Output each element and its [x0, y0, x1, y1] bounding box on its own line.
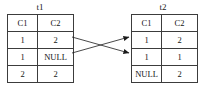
connector-t1-row1-to-t2-row2 — [72, 37, 129, 53]
table-t1: C1 C2 1 2 1 NULL 2 2 — [7, 14, 74, 83]
header-cell-c2: C2 — [38, 15, 74, 32]
cell-c1: 1 — [8, 49, 38, 66]
header-cell-c1: C1 — [132, 15, 162, 32]
header-cell-c2: C2 — [162, 15, 198, 32]
cell-c1: 1 — [132, 32, 162, 49]
cell-c2: 2 — [162, 32, 198, 49]
table-header-row: C1 C2 — [8, 15, 74, 32]
connector-t1-row2-to-t2-row1 — [72, 37, 129, 53]
cell-c2: NULL — [38, 49, 74, 66]
cell-c2: 2 — [38, 32, 74, 49]
header-cell-c1: C1 — [8, 15, 38, 32]
table-t2: C1 C2 1 2 1 1 NULL 2 — [131, 14, 198, 83]
table-row: 1 1 — [132, 49, 198, 66]
cell-c1: 1 — [132, 49, 162, 66]
table-row: 1 2 — [132, 32, 198, 49]
cell-c1: 1 — [8, 32, 38, 49]
table-row: 1 NULL — [8, 49, 74, 66]
table-header-row: C1 C2 — [132, 15, 198, 32]
cell-c1: 2 — [8, 66, 38, 83]
table-row: 1 2 — [8, 32, 74, 49]
cell-c2: 2 — [38, 66, 74, 83]
table-row: 2 2 — [8, 66, 74, 83]
table-title-t2: t2 — [131, 2, 195, 12]
table-row: NULL 2 — [132, 66, 198, 83]
cell-c1: NULL — [132, 66, 162, 83]
cell-c2: 1 — [162, 49, 198, 66]
table-title-t1: t1 — [7, 2, 73, 12]
cell-c2: 2 — [162, 66, 198, 83]
diagram-canvas: t1 C1 C2 1 2 1 NULL 2 2 t2 C1 — [0, 0, 200, 88]
